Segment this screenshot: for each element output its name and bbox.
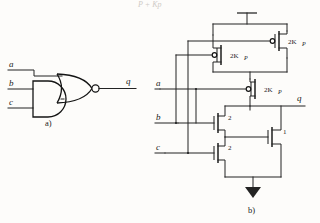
input-label-a: a (9, 59, 14, 69)
nor-bubble-icon (92, 85, 99, 92)
pmos-a-gate-bubble-icon (246, 87, 251, 92)
nmos-a: 1 (225, 106, 287, 177)
output-label-q-a: q (126, 76, 131, 86)
part-b-diagram: 2K P 2K P 2K P (155, 13, 306, 215)
nmos-b: 2 (178, 106, 232, 137)
pmos-b-gate-bubble-icon (212, 53, 217, 58)
wire-a-input (8, 70, 62, 76)
part-a-diagram: a b c q a) (8, 59, 136, 128)
junction-dot-a (195, 88, 197, 90)
ground-triangle-icon (245, 187, 261, 198)
nmos-c-size-label: 2 (228, 144, 232, 152)
pmos-b-size-label: 2K (230, 52, 239, 60)
junction-dot-c (187, 152, 189, 154)
figure-canvas: P + Kp a b c q a) (0, 0, 320, 223)
output-label-q-b: q (297, 93, 302, 103)
pmos-a: 2K P (160, 79, 282, 106)
junction-dot-b (175, 122, 177, 124)
page-fragment-text: P + Kp (137, 0, 161, 9)
vdd-supply-icon (237, 13, 257, 24)
nmos-a-size-label: 1 (283, 128, 287, 136)
pmos-c-size-label: 2K (288, 38, 297, 46)
pmos-c: 2K P (188, 31, 306, 58)
pmos-a-size-label: 2K (264, 86, 273, 94)
pmos-b-size-sub: P (243, 55, 248, 61)
input-label-a-b: a (156, 78, 161, 88)
input-label-b-b: b (156, 112, 161, 122)
caption-part-a: a) (45, 118, 52, 128)
nmos-b-size-label: 2 (228, 114, 232, 122)
input-label-c-b: c (156, 142, 160, 152)
pmos-c-size-sub: P (301, 41, 306, 47)
nmos-c: 2 (165, 137, 232, 177)
input-label-b: b (9, 78, 14, 88)
input-label-c: c (9, 97, 13, 107)
pmos-a-size-sub: P (277, 89, 282, 95)
pmos-c-gate-bubble-icon (270, 39, 275, 44)
caption-part-b: b) (248, 205, 255, 215)
